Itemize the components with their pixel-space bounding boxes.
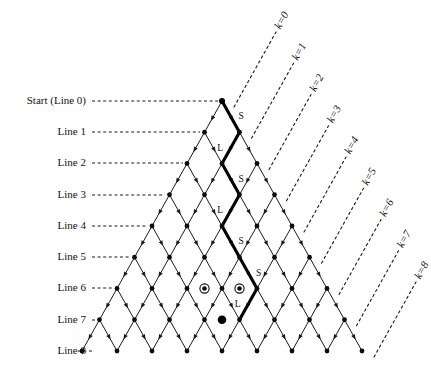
k-axis-label-7: k=7 — [394, 228, 413, 250]
k-axis-label-4: k=4 — [342, 134, 361, 156]
k-axis-label-2: k=2 — [307, 71, 326, 93]
path-step-label-4: S — [239, 236, 244, 246]
path-step-label-0: S — [239, 111, 244, 121]
k-label-group: k=0k=1k=2k=3k=4k=5k=6k=7k=8 — [272, 9, 431, 281]
path-segment-2 — [222, 164, 240, 195]
path-step-label-3: L — [217, 205, 223, 215]
lattice-diagram: Start (Line 0)Line 1Line 2Line 3Line 4Li… — [0, 0, 431, 377]
line-label-2: Line 2 — [58, 156, 86, 168]
path-segment-4 — [222, 226, 240, 257]
k-axis-label-6: k=6 — [377, 196, 396, 218]
path-step-label-2: S — [239, 174, 244, 184]
line-label-0: Start (Line 0) — [27, 94, 87, 107]
line-label-group: Start (Line 0)Line 1Line 2Line 3Line 4Li… — [27, 94, 87, 356]
k-axis-label-3: k=3 — [324, 103, 343, 125]
path-step-label-6: L — [235, 299, 241, 309]
k-axis-label-0: k=0 — [272, 9, 291, 31]
line-label-6: Line 6 — [58, 281, 87, 293]
line-label-4: Line 4 — [58, 219, 87, 231]
circled-node-dot-ring-left — [202, 286, 207, 291]
path-step-label-5: S — [256, 268, 261, 278]
path-segment-5 — [240, 257, 258, 288]
line-label-1: Line 1 — [58, 125, 86, 137]
start-node — [219, 98, 225, 104]
path-segment-1 — [222, 132, 240, 163]
terminal-node — [218, 315, 227, 324]
k-axis-label-5: k=5 — [359, 165, 378, 187]
k-axis-label-8: k=8 — [412, 259, 431, 281]
step-label-group: SLSLSSL — [217, 111, 261, 309]
circled-node-dot-ring-right — [237, 286, 242, 291]
line-label-8: Line 8 — [58, 344, 87, 356]
line-label-7: Line 7 — [58, 313, 87, 325]
line-label-leader-group — [78, 101, 218, 351]
path-segment-0 — [222, 101, 240, 132]
k-diagonal-line-group — [234, 32, 416, 357]
path-segment-3 — [222, 195, 240, 226]
figure-canvas: Start (Line 0)Line 1Line 2Line 3Line 4Li… — [0, 0, 431, 377]
line-label-3: Line 3 — [58, 188, 87, 200]
line-label-5: Line 5 — [58, 250, 87, 262]
k-axis-label-1: k=1 — [289, 40, 308, 61]
path-segment-6 — [240, 289, 258, 320]
path-step-label-1: L — [217, 143, 223, 153]
